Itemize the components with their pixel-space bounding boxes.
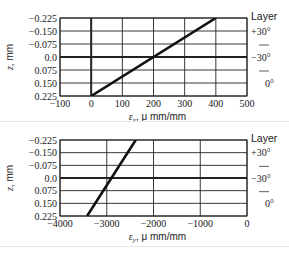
legend-layer-angle: +30° <box>251 147 271 158</box>
y-axis-label: z, mm <box>4 44 15 71</box>
x-tick-label: −4000 <box>47 218 73 229</box>
legend-layer-angle: +30° <box>251 26 271 37</box>
chart-ex-plot: −0.225−0.150−0.0750.00.0750.1500.225−100… <box>0 0 289 121</box>
y-tick-label: −0.225 <box>29 135 57 146</box>
y-tick-label: −0.225 <box>29 13 57 24</box>
x-tick-label: −1000 <box>187 218 213 229</box>
x-tick-label: 500 <box>240 98 255 109</box>
x-tick-label: 0 <box>245 218 250 229</box>
x-tick-label: −3000 <box>94 218 120 229</box>
y-tick-label: −0.150 <box>29 147 57 158</box>
y-tick-label: 0.075 <box>35 185 58 196</box>
x-tick-label: 300 <box>177 98 192 109</box>
chart-ey-plot: −0.225−0.150−0.0750.00.0750.1500.225−400… <box>0 122 289 246</box>
x-axis-label: εy, μ mm/mm <box>129 231 186 244</box>
legend-layer-angle: −30° <box>251 173 271 184</box>
chart-ex: −0.225−0.150−0.0750.00.0750.1500.225−100… <box>0 0 289 121</box>
y-tick-label: 0.150 <box>35 78 58 89</box>
chart-gxy-plot <box>0 247 289 279</box>
y-tick-label: −0.150 <box>29 26 57 37</box>
legend-layer-angle: 0° <box>265 198 274 209</box>
legend-title: Layer <box>251 132 278 144</box>
x-tick-label: −100 <box>50 98 71 109</box>
x-tick-label: 200 <box>146 98 161 109</box>
x-tick-label: 100 <box>115 98 130 109</box>
legend-layer-angle: 0° <box>265 78 274 89</box>
legend-title: Layer <box>251 10 278 22</box>
y-tick-label: −0.075 <box>29 160 57 171</box>
chart-ey: −0.225−0.150−0.0750.00.0750.1500.225−400… <box>0 122 289 246</box>
y-tick-label: 0.0 <box>45 173 58 184</box>
x-tick-label: −2000 <box>141 218 167 229</box>
y-tick-label: 0.0 <box>45 52 58 63</box>
y-tick-label: −0.075 <box>29 39 57 50</box>
y-tick-label: 0.150 <box>35 198 58 209</box>
legend-layer-angle: −30° <box>251 52 271 63</box>
chart-gxy <box>0 247 289 279</box>
y-axis-label: z, mm <box>4 165 15 192</box>
x-tick-label: 400 <box>208 98 223 109</box>
x-tick-label: 0 <box>89 98 94 109</box>
y-tick-label: 0.075 <box>35 65 58 76</box>
